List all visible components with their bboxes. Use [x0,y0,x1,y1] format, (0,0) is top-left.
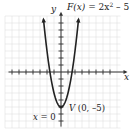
function-eq: = 2x [85,2,109,12]
function-tail: – 5 [113,2,129,12]
parabola-graph: y F(x) = 2x2 – 5 x V (0, –5) x = 0 [0,0,139,129]
curve-arrow-icon [76,18,80,23]
vertex-label: V (0, –5) [69,103,105,113]
y-axis-label: y [50,4,57,14]
curve-arrow-icon [42,18,46,23]
x-axis-label: x [124,72,129,82]
axis-of-symmetry-label: x = 0 [33,112,56,122]
y-axis-arrow-icon [59,12,63,16]
vertex-point [59,105,62,108]
vertex-coords: (0, –5) [75,103,105,113]
function-label: F(x) = 2x2 – 5 [66,1,129,12]
axis-sym-eq: = 0 [38,112,56,122]
function-name: F(x) [66,2,86,12]
